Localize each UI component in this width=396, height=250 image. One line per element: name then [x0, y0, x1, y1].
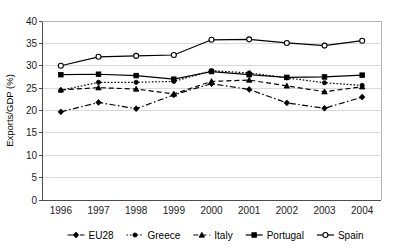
data-point-marker	[209, 37, 214, 42]
data-point-marker	[285, 75, 290, 80]
data-point-marker	[172, 77, 177, 82]
x-tick-label: 2003	[313, 205, 336, 216]
y-axis-tick-labels: 0510152025303540	[26, 16, 42, 206]
data-point-marker	[59, 72, 64, 77]
data-point-marker	[58, 109, 63, 115]
y-tick-label: 5	[31, 172, 37, 183]
data-point-marker	[96, 80, 100, 84]
legend-label: Portugal	[267, 230, 304, 241]
data-point-marker	[96, 100, 101, 106]
data-point-marker	[284, 100, 289, 106]
data-point-marker	[360, 73, 365, 78]
data-point-marker	[134, 73, 139, 78]
data-point-marker	[134, 80, 138, 84]
x-tick-label: 2004	[351, 205, 374, 216]
data-point-marker	[247, 72, 252, 77]
x-tick-label: 1996	[50, 205, 73, 216]
data-point-marker	[246, 87, 251, 93]
x-tick-label: 2001	[238, 205, 261, 216]
x-tick-label: 1998	[125, 205, 148, 216]
y-tick-label: 0	[31, 195, 37, 206]
data-point-marker	[96, 72, 101, 77]
x-tick-label: 2002	[276, 205, 299, 216]
line-chart: 0510152025303540 19961997199819992000200…	[0, 0, 396, 250]
data-point-marker	[322, 75, 327, 80]
x-axis-tick-labels: 199619971998199920002001200220032004	[50, 205, 374, 216]
data-point-marker	[171, 53, 176, 58]
x-tick-label: 1997	[87, 205, 110, 216]
y-axis-title: Exports/GDP (%)	[4, 74, 15, 147]
data-point-marker	[134, 53, 139, 58]
legend-item-portugal[interactable]: Portugal	[246, 230, 304, 241]
y-tick-label: 40	[26, 16, 38, 27]
chart-legend: EU28GreeceItalyPortugalSpain	[68, 230, 364, 241]
y-tick-label: 25	[26, 83, 38, 94]
legend-label: EU28	[89, 230, 114, 241]
y-tick-label: 10	[26, 150, 38, 161]
data-point-marker	[284, 40, 289, 45]
legend-label: Spain	[338, 230, 364, 241]
data-point-marker	[73, 232, 78, 238]
data-series	[58, 37, 365, 115]
data-point-marker	[322, 81, 326, 85]
legend-item-spain[interactable]: Spain	[317, 230, 364, 241]
x-tick-label: 2000	[200, 205, 223, 216]
legend-item-eu28[interactable]: EU28	[68, 230, 114, 241]
chart-container: 0510152025303540 19961997199819992000200…	[0, 0, 396, 250]
y-tick-label: 20	[26, 105, 38, 116]
data-point-marker	[96, 54, 101, 59]
y-tick-label: 35	[26, 38, 38, 49]
data-point-marker	[360, 38, 365, 43]
y-tick-label: 30	[26, 60, 38, 71]
data-point-marker	[247, 37, 252, 42]
y-axis-label-text: Exports/GDP (%)	[4, 74, 15, 147]
data-point-marker	[252, 233, 257, 238]
series-spain	[58, 37, 364, 68]
data-point-marker	[322, 43, 327, 48]
y-tick-label: 15	[26, 127, 38, 138]
data-point-marker	[133, 233, 137, 237]
data-point-marker	[209, 69, 214, 74]
legend-item-italy[interactable]: Italy	[193, 230, 232, 241]
legend-label: Italy	[214, 230, 232, 241]
legend-item-greece[interactable]: Greece	[127, 230, 181, 241]
data-point-marker	[359, 94, 364, 100]
data-point-marker	[323, 233, 328, 238]
data-point-marker	[58, 63, 63, 68]
legend-label: Greece	[148, 230, 181, 241]
series-eu28	[58, 81, 365, 115]
x-tick-label: 1999	[163, 205, 186, 216]
